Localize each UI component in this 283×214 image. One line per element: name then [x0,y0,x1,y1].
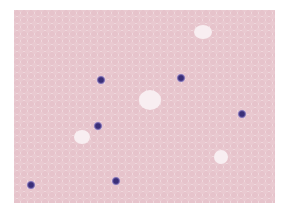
stained-cell [97,76,106,85]
stained-cell [177,74,186,83]
clear-area [139,90,161,110]
clear-area [214,150,228,164]
stained-cell [112,177,121,186]
stained-cell [27,181,36,190]
stained-cell [94,122,103,131]
blood-smear-field [14,10,275,203]
clear-area [194,25,212,39]
stained-cell [238,110,247,119]
clear-area [74,130,90,144]
